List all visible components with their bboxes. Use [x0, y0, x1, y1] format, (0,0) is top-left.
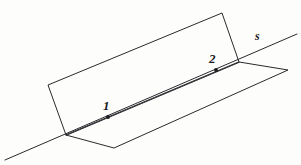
- line-s: [5, 34, 297, 160]
- point-2-label: 2: [209, 52, 216, 65]
- point-1-label: 1: [103, 99, 110, 112]
- geometry-figure: 1 2 s: [0, 0, 301, 165]
- line-s-label: s: [255, 30, 260, 42]
- point-1-dot: [106, 115, 110, 119]
- figure-canvas: [0, 0, 301, 165]
- horizontal-plane: [66, 62, 288, 148]
- point-2-dot: [214, 68, 218, 72]
